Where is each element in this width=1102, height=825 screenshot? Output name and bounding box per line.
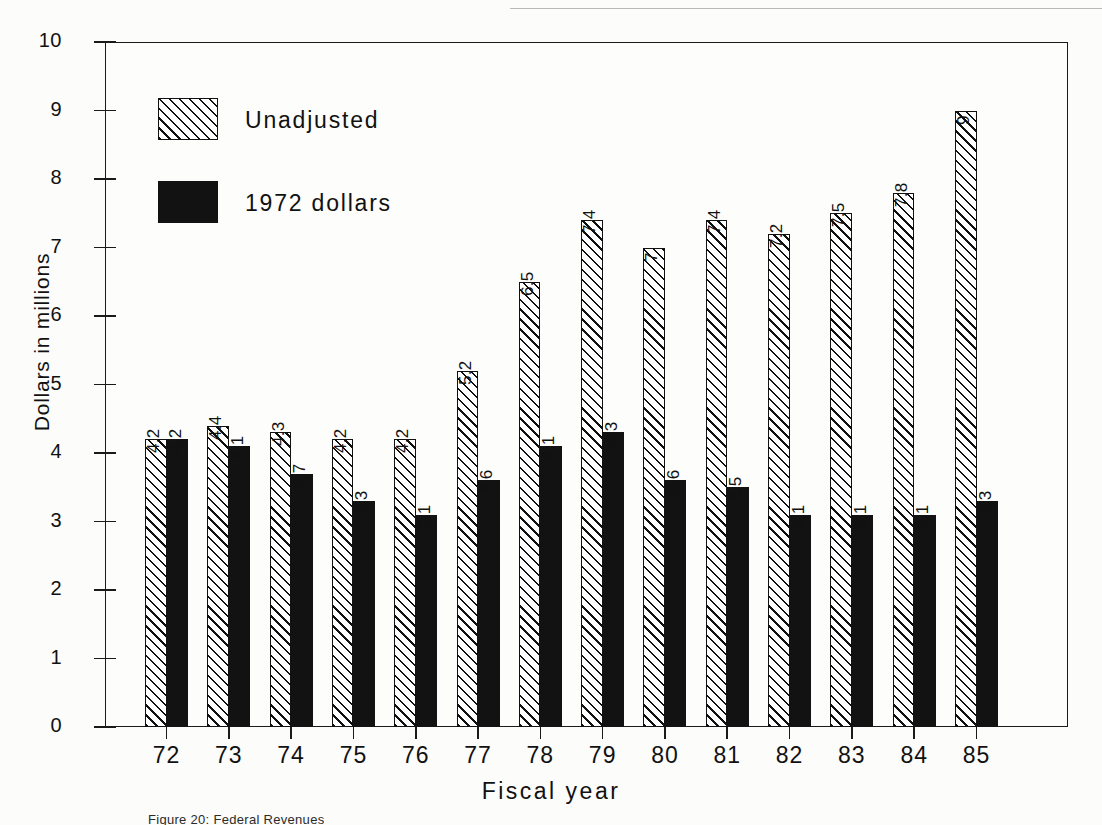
x-axis-title: Fiscal year	[0, 778, 1102, 805]
x-axis-tick	[851, 727, 853, 739]
bar	[229, 446, 251, 727]
bar-value-label: 4.3	[602, 422, 622, 447]
bar-value-label: 3.1	[415, 504, 435, 529]
bar	[540, 446, 562, 727]
bar-value-label: 3.1	[851, 504, 871, 529]
x-axis-tick	[290, 727, 292, 739]
bar	[167, 439, 189, 727]
bar	[457, 371, 479, 727]
bar	[394, 439, 416, 727]
bar	[416, 515, 438, 727]
bar-value-label: 3.7	[290, 463, 310, 488]
legend-swatch-unadjusted	[158, 98, 218, 140]
y-axis-tick-label: 8	[10, 166, 62, 189]
x-axis-tick	[540, 727, 542, 739]
bar	[955, 111, 977, 728]
x-axis-tick	[166, 727, 168, 739]
x-axis-tick-label: 84	[884, 742, 944, 769]
bar-value-label: 7.8	[892, 182, 912, 207]
x-axis-tick-label: 83	[822, 742, 882, 769]
bar-value-label: 3.6	[664, 470, 684, 495]
bar-value-label: 5.2	[456, 360, 476, 385]
y-axis-tick-label: 2	[10, 577, 62, 600]
x-axis-tick-label: 80	[635, 742, 695, 769]
bar-value-label: 9	[954, 115, 974, 125]
bar	[706, 220, 728, 727]
bar-value-label: 4.4	[206, 415, 226, 440]
bar-value-label: 3.6	[477, 470, 497, 495]
bar-value-label: 4.2	[144, 429, 164, 454]
y-axis-tick-label: 0	[10, 714, 62, 737]
y-axis-tick-label: 10	[10, 29, 62, 52]
bar-value-label: 3.1	[789, 504, 809, 529]
y-axis-tick-label: 9	[10, 98, 62, 121]
x-axis-tick	[415, 727, 417, 739]
legend-label: Unadjusted	[245, 107, 379, 134]
x-axis-tick-label: 74	[261, 742, 321, 769]
bar-value-label: 7	[642, 252, 662, 262]
bar	[790, 515, 812, 727]
bar	[145, 439, 167, 727]
bar	[830, 213, 852, 727]
x-axis-tick	[976, 727, 978, 739]
bar	[207, 426, 229, 727]
bar	[581, 220, 603, 727]
bar-value-label: 6.5	[518, 271, 538, 296]
x-axis-tick	[726, 727, 728, 739]
x-axis-tick-label: 73	[199, 742, 259, 769]
bar	[332, 439, 354, 727]
legend-swatch-constant-dollars	[158, 181, 218, 223]
x-axis-tick-label: 76	[386, 742, 446, 769]
x-axis-tick	[789, 727, 791, 739]
x-axis-tick-label: 75	[323, 742, 383, 769]
bar-value-label: 7.2	[767, 223, 787, 248]
y-axis-title: Dollars in millions	[30, 212, 54, 472]
bar	[665, 480, 687, 727]
legend-label: 1972 dollars	[245, 190, 392, 217]
x-axis-tick	[913, 727, 915, 739]
x-axis-tick	[228, 727, 230, 739]
bar	[478, 480, 500, 727]
x-axis-tick	[353, 727, 355, 739]
bar-value-label: 7.4	[705, 210, 725, 235]
bar-value-label: 7.4	[580, 210, 600, 235]
x-axis-tick-label: 85	[947, 742, 1007, 769]
bar-value-label: 3.3	[352, 490, 372, 515]
x-axis-tick	[664, 727, 666, 739]
x-axis-tick-label: 82	[760, 742, 820, 769]
bar	[643, 248, 665, 728]
bar-value-label: 3.1	[913, 504, 933, 529]
y-axis-tick-label: 3	[10, 509, 62, 532]
x-axis-tick-label: 81	[697, 742, 757, 769]
bar-value-label: 4.1	[228, 436, 248, 461]
bar	[353, 501, 375, 727]
x-axis-tick	[477, 727, 479, 739]
y-axis-tick-label: 1	[10, 646, 62, 669]
figure-caption: Figure 20: Federal Revenues	[148, 812, 324, 825]
x-axis-tick-label: 79	[573, 742, 633, 769]
bar-value-label: 3.5	[726, 477, 746, 502]
x-axis-tick-label: 77	[448, 742, 508, 769]
bar-value-label: 4.2	[166, 429, 186, 454]
bar	[727, 487, 749, 727]
bar-value-label: 7.5	[829, 203, 849, 228]
bar	[893, 193, 915, 727]
bar	[603, 432, 625, 727]
bar-value-label: 4.3	[269, 422, 289, 447]
bar-value-label: 4.1	[539, 436, 559, 461]
bar	[914, 515, 936, 727]
bar	[852, 515, 874, 727]
bar-value-label: 4.2	[331, 429, 351, 454]
bar	[977, 501, 999, 727]
bar	[768, 234, 790, 727]
x-axis-tick	[602, 727, 604, 739]
bar	[291, 474, 313, 727]
bar	[270, 432, 292, 727]
x-axis-tick-label: 72	[137, 742, 197, 769]
x-axis-tick-label: 78	[510, 742, 570, 769]
bar-value-label: 3.3	[976, 490, 996, 515]
bar-value-label: 4.2	[393, 429, 413, 454]
bar-chart-figure: 012345678910 727374757677787980818283848…	[0, 0, 1102, 825]
bar	[519, 282, 541, 727]
